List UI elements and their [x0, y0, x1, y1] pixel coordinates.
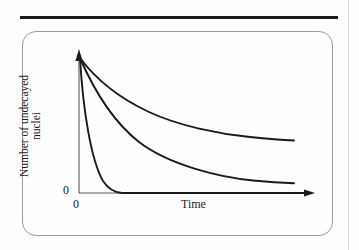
x-axis-zero-tick-label: 0: [73, 198, 79, 210]
chart-svg: [23, 32, 334, 237]
decay-curve-short-half-life: [80, 58, 309, 193]
decay-curve-chart: Number of undecayed nuclei Time 0 0: [23, 32, 334, 237]
x-axis-label: Time: [181, 198, 206, 210]
decay-curve-medium-half-life: [80, 58, 294, 183]
y-axis-label-line2: nuclei: [31, 70, 43, 182]
y-axis-label: Number of undecayed nuclei: [19, 70, 43, 182]
page-column-edge-line: [348, 0, 349, 250]
y-axis-label-line1: Number of undecayed: [18, 75, 30, 177]
y-axis-zero-tick-label: 0: [63, 184, 69, 196]
decay-curve-long-half-life: [80, 58, 294, 141]
figure-frame: Number of undecayed nuclei Time 0 0: [22, 31, 333, 236]
page-horizontal-rule: [20, 16, 338, 19]
